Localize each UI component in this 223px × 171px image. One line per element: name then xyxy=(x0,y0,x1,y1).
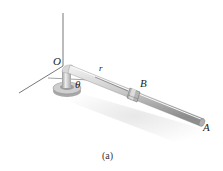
label-origin-o: O xyxy=(53,56,61,67)
label-end-a: A xyxy=(203,122,210,133)
rod-diagram xyxy=(0,0,223,171)
label-angle-theta: θ xyxy=(75,79,80,90)
mechanics-figure: O r θ B A (a) xyxy=(0,0,223,171)
label-radius-r: r xyxy=(99,64,103,73)
figure-caption: (a) xyxy=(102,151,113,161)
label-collar-b: B xyxy=(140,78,147,89)
